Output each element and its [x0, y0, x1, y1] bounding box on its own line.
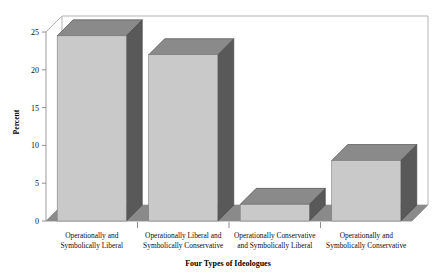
y-tick-label: 15	[31, 104, 39, 113]
bar-3	[240, 188, 325, 221]
x-category-label-line: Operationally Conservative	[234, 231, 316, 240]
bar-front-face	[240, 204, 309, 221]
bar-chart-figure: 0510152025 Operationally andSymbolically…	[0, 0, 445, 276]
y-tick-label: 25	[31, 28, 39, 37]
x-category-label-line: Operationally and	[340, 231, 393, 240]
x-category-label-line: and Symbolically Liberal	[237, 241, 312, 250]
depth-edge-top-left	[46, 16, 62, 32]
bar-2	[149, 39, 234, 221]
y-axis-ticks: 0510152025	[31, 28, 46, 226]
bar-front-face	[332, 161, 401, 221]
bar-side-face	[218, 39, 234, 221]
y-axis-title: Percent	[12, 109, 21, 134]
x-category-label-line: Operationally and	[65, 231, 118, 240]
x-axis-category-labels: Operationally andSymbolically LiberalOpe…	[60, 231, 407, 250]
y-tick-label: 20	[31, 66, 39, 75]
chart-canvas: 0510152025 Operationally andSymbolically…	[0, 0, 445, 276]
x-axis-ticks	[138, 222, 321, 228]
y-tick-label: 5	[35, 179, 39, 188]
x-category-label-line: Symbolically Conservative	[326, 241, 407, 250]
y-tick-label: 0	[35, 217, 39, 226]
y-tick-label: 10	[31, 141, 39, 150]
x-category-label-line: Symbolically Liberal	[60, 241, 123, 250]
bar-front-face	[57, 36, 126, 221]
x-category-label-line: Symbolically Conservative	[143, 241, 224, 250]
bar-1	[57, 20, 142, 221]
x-axis-title: Four Types of Ideologues	[185, 259, 271, 268]
bar-side-face	[126, 20, 142, 221]
x-category-label-line: Operationally Liberal and	[145, 231, 222, 240]
bar-front-face	[149, 55, 218, 221]
bar-4	[332, 145, 417, 221]
